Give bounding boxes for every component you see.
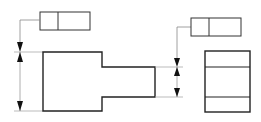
side-view: [205, 51, 250, 112]
arrowhead-icon: [17, 42, 23, 52]
left-dimension-line: [17, 52, 23, 111]
left-feature-control-frame: [40, 12, 90, 30]
arrowhead-icon: [174, 67, 180, 76]
arrowhead-icon: [17, 52, 23, 62]
right-leader-line: [174, 27, 191, 67]
front-view-outline: [43, 52, 155, 111]
arrowhead-icon: [174, 88, 180, 97]
technical-drawing: [0, 0, 261, 122]
right-dimension-line: [174, 67, 180, 97]
left-leader-line: [17, 20, 40, 52]
arrowhead-icon: [17, 101, 23, 111]
right-feature-control-frame: [191, 18, 241, 36]
arrowhead-icon: [174, 58, 180, 67]
